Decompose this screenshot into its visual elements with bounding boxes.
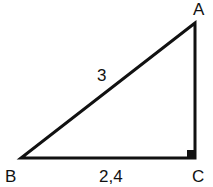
triangle-svg: A B C 3 2,4 bbox=[0, 0, 213, 187]
triangle-diagram: A B C 3 2,4 bbox=[0, 0, 213, 187]
right-angle-marker bbox=[187, 150, 195, 158]
side-label-ab: 3 bbox=[97, 66, 106, 85]
vertex-label-c: C bbox=[192, 167, 204, 186]
vertex-label-b: B bbox=[5, 167, 16, 186]
vertex-label-a: A bbox=[193, 0, 205, 19]
triangle-abc bbox=[21, 23, 195, 158]
side-label-bc: 2,4 bbox=[99, 167, 123, 186]
